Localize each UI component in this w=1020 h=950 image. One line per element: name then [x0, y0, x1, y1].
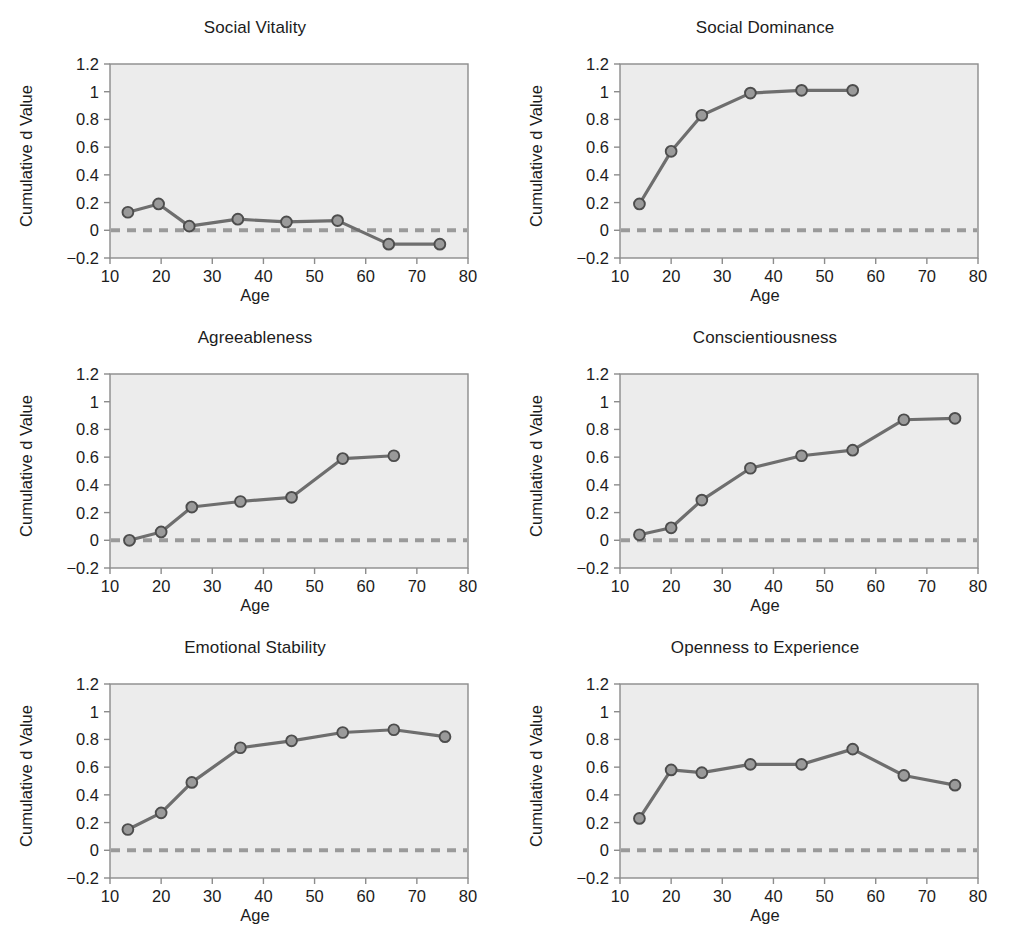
- data-point-marker: [898, 414, 909, 425]
- data-point-marker: [186, 777, 197, 788]
- y-tick-label: 1: [90, 393, 99, 411]
- y-tick-label: 0.2: [76, 814, 99, 832]
- y-tick-label: 0.4: [76, 476, 99, 494]
- x-tick-label: 40: [764, 267, 782, 285]
- y-tick-label: 0.2: [586, 814, 609, 832]
- y-tick-label: 0: [600, 531, 609, 549]
- x-tick-label: 50: [305, 887, 323, 905]
- y-tick-label: 0.6: [586, 758, 609, 776]
- y-tick-label: 0: [90, 221, 99, 239]
- data-point-marker: [898, 770, 909, 781]
- data-point-marker: [796, 85, 807, 96]
- x-tick-label: 50: [305, 577, 323, 595]
- y-tick-label: 1.2: [586, 365, 609, 383]
- data-point-marker: [847, 744, 858, 755]
- data-point-marker: [124, 535, 135, 546]
- data-point-marker: [745, 759, 756, 770]
- data-point-marker: [634, 199, 645, 210]
- x-tick-label: 10: [611, 267, 629, 285]
- x-tick-label: 70: [408, 887, 426, 905]
- y-tick-label: −0.2: [576, 869, 609, 887]
- y-tick-label: 0.4: [586, 476, 609, 494]
- y-tick-label: 0.6: [586, 138, 609, 156]
- x-tick-label: 30: [713, 577, 731, 595]
- data-point-marker: [950, 413, 961, 424]
- y-tick-label: 1: [90, 703, 99, 721]
- y-tick-label: 1: [600, 703, 609, 721]
- y-tick-label: 0: [600, 841, 609, 859]
- x-tick-label: 20: [662, 577, 680, 595]
- y-tick-label: −0.2: [66, 559, 99, 577]
- x-tick-label: 10: [101, 577, 119, 595]
- x-tick-label: 50: [815, 577, 833, 595]
- data-point-marker: [337, 727, 348, 738]
- data-point-marker: [383, 239, 394, 250]
- y-tick-label: 0.8: [586, 110, 609, 128]
- y-tick-label: 0.2: [586, 194, 609, 212]
- chart-panel-openness-to-experience: Openness to ExperienceCumulative d Value…: [510, 620, 1020, 950]
- x-tick-label: 20: [152, 267, 170, 285]
- data-point-marker: [235, 496, 246, 507]
- y-tick-label: −0.2: [576, 559, 609, 577]
- data-point-marker: [745, 88, 756, 99]
- x-tick-label: 50: [815, 267, 833, 285]
- data-point-marker: [666, 522, 677, 533]
- x-tick-label: 80: [969, 267, 987, 285]
- y-tick-label: 1: [600, 393, 609, 411]
- plot-area-agreeableness: −0.200.20.40.60.811.21020304050607080: [0, 310, 510, 620]
- y-tick-label: 0.2: [76, 504, 99, 522]
- x-tick-label: 60: [357, 267, 375, 285]
- data-point-marker: [847, 85, 858, 96]
- y-tick-label: 0.2: [586, 504, 609, 522]
- x-tick-label: 60: [867, 577, 885, 595]
- y-tick-label: 1.2: [76, 55, 99, 73]
- plot-area-social-vitality: −0.200.20.40.60.811.21020304050607080: [0, 0, 510, 310]
- x-tick-label: 60: [867, 267, 885, 285]
- data-point-marker: [235, 742, 246, 753]
- data-point-marker: [186, 502, 197, 513]
- y-tick-label: 0.4: [586, 166, 609, 184]
- x-tick-label: 30: [713, 887, 731, 905]
- x-tick-label: 70: [408, 577, 426, 595]
- x-tick-label: 10: [101, 267, 119, 285]
- data-point-marker: [123, 824, 134, 835]
- data-point-marker: [696, 767, 707, 778]
- x-tick-label: 80: [459, 267, 477, 285]
- x-tick-label: 30: [203, 267, 221, 285]
- x-tick-label: 20: [662, 887, 680, 905]
- chart-panel-conscientiousness: ConscientiousnessCumulative d ValueAge−0…: [510, 310, 1020, 620]
- x-tick-label: 40: [764, 887, 782, 905]
- data-point-marker: [156, 807, 167, 818]
- x-tick-label: 60: [357, 887, 375, 905]
- y-tick-label: 0.6: [76, 758, 99, 776]
- y-tick-label: 1.2: [76, 675, 99, 693]
- y-tick-label: 1.2: [76, 365, 99, 383]
- y-tick-label: 0.8: [76, 110, 99, 128]
- data-point-marker: [696, 110, 707, 121]
- plot-area-emotional-stability: −0.200.20.40.60.811.21020304050607080: [0, 620, 510, 930]
- x-tick-label: 30: [713, 267, 731, 285]
- x-tick-label: 60: [867, 887, 885, 905]
- x-tick-label: 40: [254, 577, 272, 595]
- plot-area-social-dominance: −0.200.20.40.60.811.21020304050607080: [510, 0, 1020, 310]
- y-tick-label: 0.6: [76, 448, 99, 466]
- y-tick-label: 0: [90, 841, 99, 859]
- y-tick-label: 0.2: [76, 194, 99, 212]
- x-tick-label: 70: [918, 887, 936, 905]
- data-point-marker: [634, 813, 645, 824]
- y-tick-label: 0.6: [586, 448, 609, 466]
- x-tick-label: 30: [203, 887, 221, 905]
- x-tick-label: 80: [969, 887, 987, 905]
- data-point-marker: [388, 450, 399, 461]
- x-tick-label: 30: [203, 577, 221, 595]
- data-point-marker: [634, 529, 645, 540]
- data-point-marker: [286, 735, 297, 746]
- x-tick-label: 40: [254, 267, 272, 285]
- x-tick-label: 40: [764, 577, 782, 595]
- data-point-marker: [796, 759, 807, 770]
- x-tick-label: 70: [918, 267, 936, 285]
- chart-panel-social-dominance: Social DominanceCumulative d ValueAge−0.…: [510, 0, 1020, 310]
- x-tick-label: 80: [459, 887, 477, 905]
- chart-panel-social-vitality: Social VitalityCumulative d ValueAge−0.2…: [0, 0, 510, 310]
- x-tick-label: 10: [611, 887, 629, 905]
